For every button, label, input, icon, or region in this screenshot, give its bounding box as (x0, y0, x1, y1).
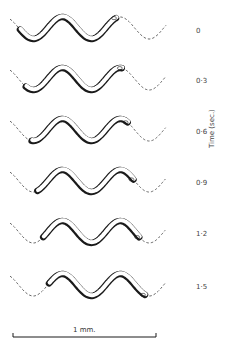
scale-bar-label: 1 mm. (73, 326, 96, 334)
time-label-5: 1·5 (196, 283, 207, 291)
time-axis-title: Time (sec.) (208, 109, 216, 148)
track-before-5 (10, 276, 49, 296)
track-after-2 (128, 122, 166, 141)
worm-sequence-figure (0, 0, 234, 350)
track-after-1 (122, 68, 166, 90)
time-label-1: 0·3 (196, 77, 207, 85)
track-before-1 (10, 70, 25, 86)
track-after-0 (116, 17, 166, 39)
time-label-2: 0·6 (196, 128, 207, 136)
track-after-5 (145, 282, 166, 296)
track-before-4 (10, 223, 43, 243)
track-after-4 (139, 230, 165, 243)
track-before-2 (10, 121, 31, 141)
worm-body-4 (44, 220, 140, 242)
time-label-4: 1·2 (196, 230, 207, 238)
track-after-3 (133, 179, 165, 192)
time-label-3: 0·9 (196, 179, 207, 187)
track-before-3 (10, 172, 37, 192)
time-label-0: 0 (196, 27, 200, 35)
